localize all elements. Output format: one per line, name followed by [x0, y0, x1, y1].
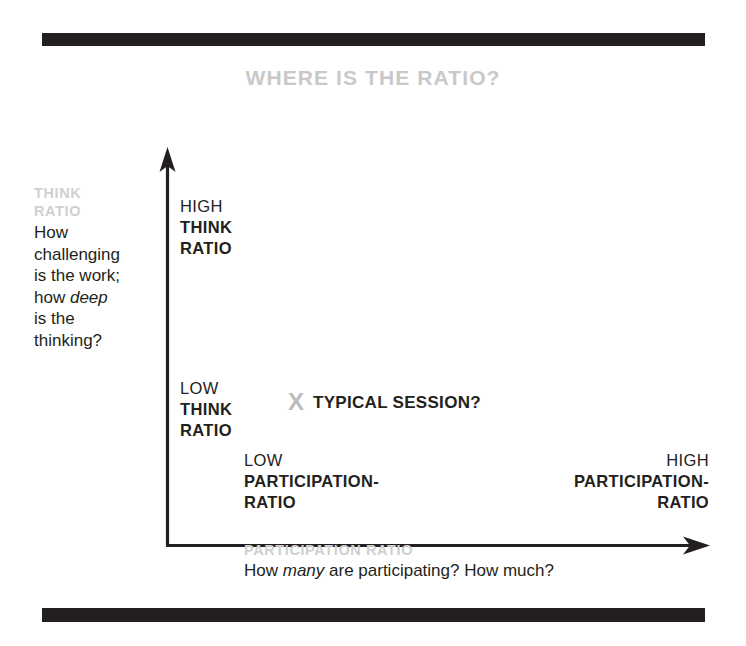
think-ratio-axis-caption: THINK RATIO How challenging is the work;… [34, 184, 158, 351]
ratio-quadrant-figure: WHERE IS THE RATIO? THINK RATIO How chal… [0, 0, 746, 646]
high-participation-line-2: RATIO [421, 492, 709, 513]
high-think-ratio-line-2: RATIO [180, 238, 232, 259]
low-participation-ratio-label: LOW PARTICIPATION- RATIO [244, 450, 379, 513]
high-participation-lead: HIGH [421, 450, 709, 471]
participation-ratio-axis-caption: PARTICIPATION RATIO How many are partici… [244, 541, 674, 581]
high-think-ratio-lead: HIGH [180, 196, 232, 217]
y-axis-arrowhead [160, 147, 176, 172]
part-desc-prefix: How [244, 561, 283, 580]
think-desc-line-3: is the work; [34, 266, 120, 285]
low-participation-line-2: RATIO [244, 492, 379, 513]
low-participation-line-1: PARTICIPATION- [244, 471, 379, 492]
high-participation-line-1: PARTICIPATION- [421, 471, 709, 492]
bottom-rule-bar [42, 608, 705, 622]
low-participation-lead: LOW [244, 450, 379, 471]
participation-ratio-description: How many are participating? How much? [244, 560, 674, 581]
low-think-ratio-line-2: RATIO [180, 420, 232, 441]
think-ratio-description: How challenging is the work; how deep is… [34, 222, 158, 351]
think-desc-line-4-prefix: how [34, 288, 70, 307]
low-think-ratio-lead: LOW [180, 378, 232, 399]
think-desc-line-5: is the [34, 309, 75, 328]
think-ratio-kicker-line-2: RATIO [34, 203, 81, 219]
part-desc-suffix: are participating? How much? [324, 561, 554, 580]
top-rule-bar [42, 33, 705, 46]
page-title: WHERE IS THE RATIO? [0, 66, 746, 90]
think-ratio-kicker: THINK RATIO [34, 184, 158, 220]
typical-session-label: TYPICAL SESSION? [313, 394, 481, 411]
think-ratio-kicker-line-1: THINK [34, 185, 81, 201]
high-participation-ratio-label: HIGH PARTICIPATION- RATIO [421, 450, 709, 513]
think-desc-line-2: challenging [34, 245, 120, 264]
low-think-ratio-line-1: THINK [180, 399, 232, 420]
low-think-ratio-label: LOW THINK RATIO [180, 378, 232, 441]
x-marker-icon: X [288, 390, 304, 414]
x-axis-arrowhead [683, 537, 710, 555]
think-desc-line-6: thinking? [34, 331, 102, 350]
participation-ratio-kicker: PARTICIPATION RATIO [244, 541, 674, 559]
high-think-ratio-line-1: THINK [180, 217, 232, 238]
high-think-ratio-label: HIGH THINK RATIO [180, 196, 232, 259]
think-desc-emphasis: deep [70, 288, 108, 307]
part-desc-emphasis: many [283, 561, 325, 580]
typical-session-datapoint: X TYPICAL SESSION? [288, 390, 481, 414]
think-desc-line-1: How [34, 223, 68, 242]
